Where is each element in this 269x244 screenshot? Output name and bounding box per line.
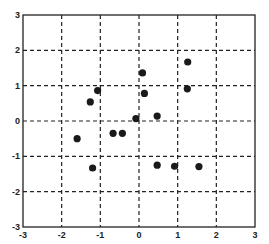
x-tick-label: 2 (214, 230, 219, 240)
y-tick-label: 1 (15, 81, 20, 91)
data-point (139, 69, 146, 76)
data-points (74, 58, 203, 171)
data-point (89, 164, 96, 171)
scatter-chart: -3-2-10123 -3-2-10123 (0, 0, 269, 244)
data-point (184, 58, 191, 65)
y-tick-label: 0 (15, 116, 20, 126)
data-point (87, 98, 94, 105)
y-axis-tick-labels: -3-2-10123 (12, 10, 20, 232)
y-tick-label: -2 (12, 187, 20, 197)
y-tick-label: 3 (15, 10, 20, 20)
data-point (141, 90, 148, 97)
x-tick-label: -3 (19, 230, 27, 240)
x-tick-label: -1 (96, 230, 104, 240)
x-tick-label: -2 (58, 230, 66, 240)
data-point (132, 115, 139, 122)
data-point (154, 162, 161, 169)
y-tick-label: 2 (15, 45, 20, 55)
x-tick-label: 0 (136, 230, 141, 240)
y-tick-label: -3 (12, 222, 20, 232)
data-point (195, 163, 202, 170)
x-tick-label: 1 (175, 230, 180, 240)
x-tick-label: 3 (252, 230, 257, 240)
data-point (109, 130, 116, 137)
x-axis-tick-labels: -3-2-10123 (19, 230, 258, 240)
grid-lines (23, 15, 255, 227)
data-point (94, 87, 101, 94)
data-point (74, 135, 81, 142)
data-point (119, 130, 126, 137)
data-point (184, 85, 191, 92)
y-tick-label: -1 (12, 151, 20, 161)
data-point (171, 163, 178, 170)
data-point (154, 112, 161, 119)
